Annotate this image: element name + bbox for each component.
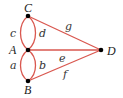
edge-label-c: c: [10, 27, 16, 40]
node-label-C: C: [24, 1, 33, 15]
node-label-B: B: [24, 83, 32, 97]
edge-label-f: f: [62, 68, 69, 81]
edge-a: [21, 50, 29, 81]
node-A: [26, 48, 31, 53]
edge-d: [28, 16, 36, 50]
edges: [21, 16, 102, 81]
graph-diagram: C A B D c d a b g e f: [0, 0, 123, 98]
node-D: [99, 48, 104, 53]
edge-label-g: g: [65, 20, 72, 33]
node-label-A: A: [8, 43, 17, 57]
edge-label-a: a: [10, 59, 17, 72]
edge-label-e: e: [59, 52, 66, 65]
edge-c: [21, 16, 29, 50]
edge-b: [28, 50, 36, 81]
edge-label-d: d: [39, 27, 46, 40]
node-label-D: D: [106, 44, 116, 58]
edge-label-b: b: [39, 59, 46, 72]
